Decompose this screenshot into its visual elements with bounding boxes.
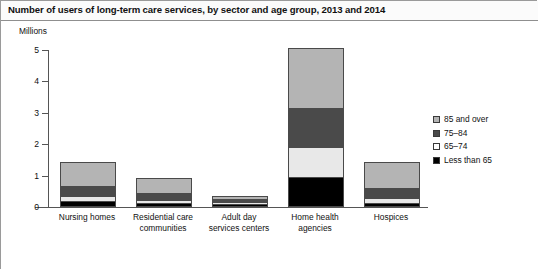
bar-segment[interactable] — [137, 179, 191, 193]
bar-segment[interactable] — [365, 163, 419, 188]
chart-legend: 85 and over75–8465–74Less than 65 — [433, 113, 533, 167]
legend-swatch-icon — [433, 157, 440, 164]
legend-swatch-icon — [433, 116, 440, 123]
bar-segment[interactable] — [61, 163, 115, 186]
stacked-bar[interactable] — [212, 196, 268, 207]
bar-segment[interactable] — [137, 193, 191, 200]
stacked-bar[interactable] — [136, 178, 192, 207]
stacked-bar[interactable] — [60, 162, 116, 207]
bar-segment[interactable] — [61, 186, 115, 196]
bar-segment[interactable] — [289, 49, 343, 108]
legend-swatch-icon — [433, 143, 440, 150]
stacked-bar[interactable] — [364, 162, 420, 207]
x-axis-category-line: Hospices — [345, 212, 437, 223]
legend-swatch-icon — [433, 130, 440, 137]
stacked-bar[interactable] — [288, 48, 344, 207]
plot-area: Millions 012345 Nursing homesResidential… — [1, 21, 538, 269]
legend-item-label: 85 and over — [444, 115, 488, 124]
x-axis-category-label: Hospices — [345, 212, 437, 223]
legend-item[interactable]: 65–74 — [433, 140, 533, 154]
bar-segment[interactable] — [137, 203, 191, 206]
x-axis-category-line: agencies — [269, 223, 361, 234]
bar-segment[interactable] — [365, 203, 419, 206]
bar-segment[interactable] — [289, 177, 343, 206]
legend-item[interactable]: 85 and over — [433, 113, 533, 127]
legend-item[interactable]: 75–84 — [433, 127, 533, 141]
legend-item[interactable]: Less than 65 — [433, 154, 533, 168]
bar-segment[interactable] — [289, 147, 343, 177]
legend-item-label: 75–84 — [444, 129, 467, 138]
bar-segment[interactable] — [61, 201, 115, 206]
page-title: Number of users of long-term care servic… — [8, 4, 385, 15]
legend-item-label: 65–74 — [444, 142, 467, 151]
bar-segment[interactable] — [213, 204, 267, 206]
bar-segment[interactable] — [365, 188, 419, 198]
chart-title-bar: Number of users of long-term care servic… — [1, 1, 538, 21]
bar-segment[interactable] — [289, 108, 343, 147]
legend-item-label: Less than 65 — [444, 156, 492, 165]
